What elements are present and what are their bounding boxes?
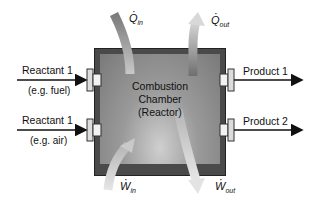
- heat-out-label: ·Qout: [211, 14, 229, 28]
- chamber-label-line1: Combustion: [100, 80, 220, 93]
- output-1-label: Product 1: [243, 65, 288, 77]
- chamber-label-line3: (Reactor): [100, 106, 220, 119]
- work-out-label: ·Wout: [215, 180, 235, 194]
- heat-in-arrow: [114, 14, 130, 74]
- work-out-arrow: [178, 110, 196, 180]
- input-2-note: (e.g. air): [30, 135, 67, 146]
- chamber-label: Combustion Chamber (Reactor): [100, 80, 220, 119]
- input-2-label: Reactant 1: [22, 114, 73, 126]
- input-1-note: (e.g. fuel): [28, 85, 70, 96]
- input-1-label: Reactant 1: [22, 64, 73, 76]
- output-2-label: Product 2: [243, 115, 288, 127]
- heat-in-label: ·Qin: [129, 12, 143, 26]
- work-in-label: ·Win: [120, 180, 136, 194]
- heat-out-arrow: [193, 22, 196, 76]
- chamber-label-line2: Chamber: [100, 93, 220, 106]
